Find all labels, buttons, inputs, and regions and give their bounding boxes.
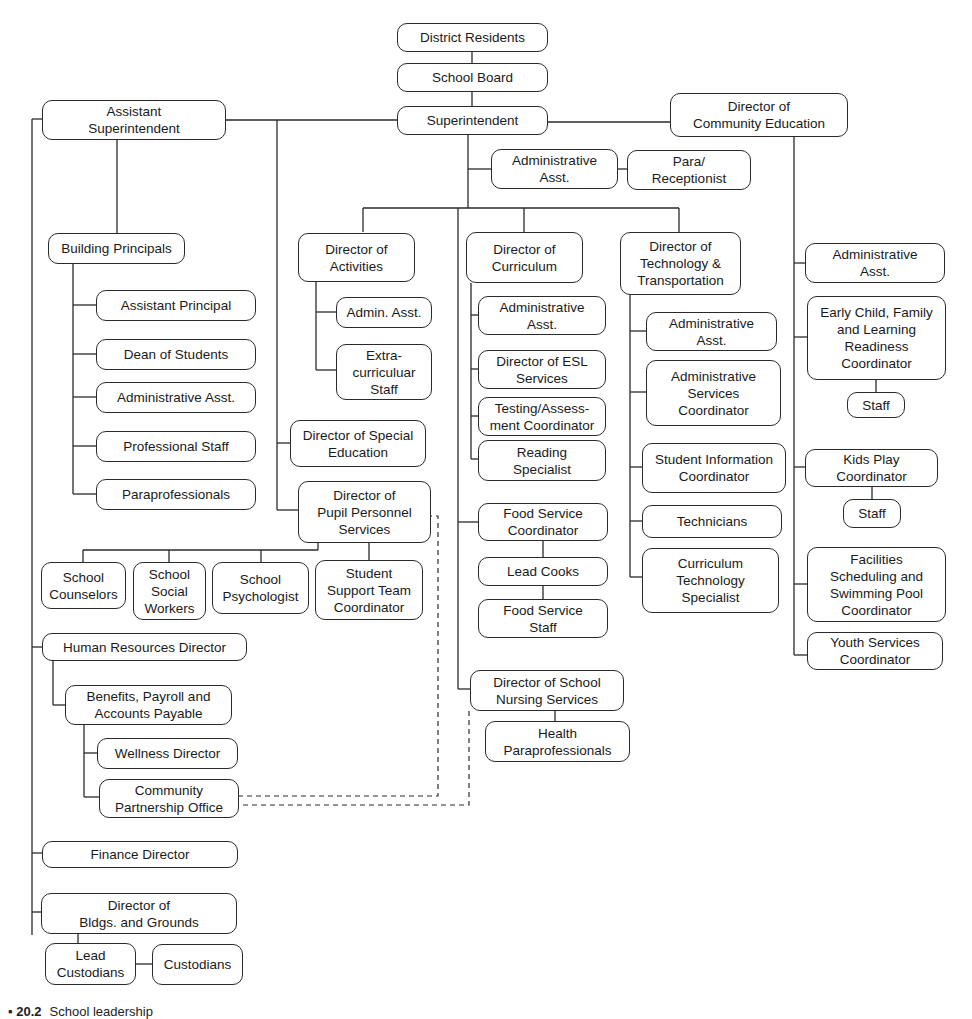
node-district-residents: District Residents [397,23,548,52]
node-supt-admin-asst: Administrative Asst. [491,149,618,189]
node-lead-custodians: Lead Custodians [45,943,136,985]
node-school-psychologist: School Psychologist [212,562,309,614]
org-chart-canvas: District Residents School Board Superint… [0,0,972,1019]
node-director-nursing: Director of School Nursing Services [470,670,624,711]
node-kids-play-staff: Staff [843,499,901,528]
node-community-partnership: Community Partnership Office [99,779,239,818]
node-tech-admin-asst: Administrative Asst. [646,312,777,351]
node-curriculum-tech-specialist: Curriculum Technology Specialist [642,548,779,613]
node-early-child-coordinator: Early Child, Family and Learning Readine… [807,296,946,380]
node-finance-director: Finance Director [42,841,238,868]
node-hr-director: Human Resources Director [42,633,247,661]
node-director-curriculum: Director of Curriculum [466,232,583,283]
node-student-support-team: Student Support Team Coordinator [315,560,423,620]
node-school-board: School Board [397,63,548,92]
node-admin-services-coordinator: Administrative Services Coordinator [646,360,781,426]
node-director-activities: Director of Activities [298,233,415,282]
node-testing-assessment: Testing/Assess- ment Coordinator [478,397,606,436]
node-assistant-superintendent: Assistant Superintendent [42,100,226,140]
node-food-service-staff: Food Service Staff [478,599,608,638]
node-facilities-pool-coordinator: Facilities Scheduling and Swimming Pool … [807,547,946,622]
node-kids-play-coordinator: Kids Play Coordinator [805,449,938,487]
node-director-special-education: Director of Special Education [290,420,426,467]
node-curr-admin-asst: Administrative Asst. [478,296,606,335]
node-wellness-director: Wellness Director [97,738,238,769]
node-activities-admin-asst: Admin. Asst. [336,297,432,328]
figure-caption: ▪ 20.2School leadership [8,1004,153,1019]
node-director-community-education: Director of Community Education [670,93,848,137]
node-bp-admin-asst: Administrative Asst. [96,382,256,413]
node-para-receptionist: Para/ Receptionist [627,150,751,190]
node-reading-specialist: Reading Specialist [478,440,606,481]
node-paraprofessionals: Paraprofessionals [96,479,256,510]
node-school-social-workers: School Social Workers [133,562,206,620]
node-assistant-principal: Assistant Principal [96,290,256,321]
node-superintendent: Superintendent [397,106,548,135]
node-technicians: Technicians [642,505,782,538]
node-building-principals: Building Principals [48,233,185,264]
node-health-paraprofessionals: Health Paraprofessionals [485,721,630,762]
node-early-child-staff: Staff [847,392,905,418]
node-school-counselors: School Counselors [41,562,126,609]
node-ce-admin-asst: Administrative Asst. [805,243,945,283]
node-food-service-coordinator: Food Service Coordinator [478,503,608,541]
node-extracurricular-staff: Extra- curriculuar Staff [336,344,432,400]
figure-label: ▪ 20.2 [8,1004,42,1019]
node-director-tech-transport: Director of Technology & Transportation [620,232,741,295]
node-student-info-coordinator: Student Information Coordinator [642,443,786,493]
node-youth-services-coordinator: Youth Services Coordinator [807,632,943,670]
node-professional-staff: Professional Staff [96,431,256,462]
node-director-buildings-grounds: Director of Bldgs. and Grounds [41,893,237,934]
node-custodians: Custodians [152,944,243,985]
node-dean-of-students: Dean of Students [96,339,256,370]
figure-caption-text: School leadership [50,1004,153,1019]
node-director-esl: Director of ESL Services [478,350,606,389]
node-benefits-payroll: Benefits, Payroll and Accounts Payable [65,685,232,725]
node-lead-cooks: Lead Cooks [478,557,608,586]
node-director-pupil-personnel: Director of Pupil Personnel Services [298,481,431,543]
